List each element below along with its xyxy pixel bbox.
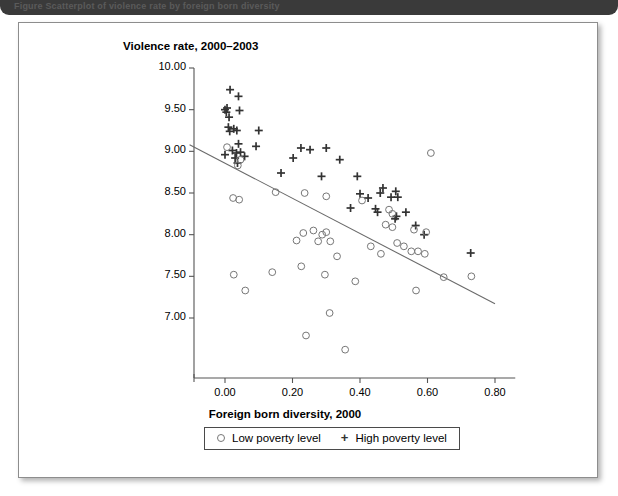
x-axis-tick-label: 0.20: [268, 386, 318, 398]
data-point-plus: [221, 151, 229, 159]
data-point-circle: [382, 221, 389, 228]
data-point-circle: [326, 310, 333, 317]
data-point-circle: [334, 253, 341, 260]
data-point-plus: [235, 92, 243, 100]
data-point-circle: [415, 248, 422, 255]
data-point-circle: [327, 238, 334, 245]
data-point-circle: [310, 227, 317, 234]
data-point-circle: [342, 346, 349, 353]
data-point-circle: [352, 278, 359, 285]
legend-item-low-poverty[interactable]: Low poverty level: [217, 432, 321, 444]
data-point-circle: [468, 273, 475, 280]
data-point-plus: [252, 142, 260, 150]
x-axis-title-text: Foreign born diversity, 2000: [209, 408, 362, 420]
data-point-circle: [300, 230, 307, 237]
data-point-plus: [402, 208, 410, 216]
figure-caption-banner: Figure Scatterplot of violence rate by f…: [0, 0, 618, 15]
data-point-circle: [293, 237, 300, 244]
data-point-circle: [408, 248, 415, 255]
data-point-plus: [255, 127, 263, 135]
data-point-plus: [356, 190, 364, 198]
data-point-plus: [318, 172, 326, 180]
data-point-plus: [237, 148, 245, 156]
data-point-circle: [389, 224, 396, 231]
data-point-circle: [411, 226, 418, 233]
figure-frame: Violence rate, 2000–2003 Foreign born di…: [18, 22, 598, 478]
data-point-plus: [297, 144, 305, 152]
data-point-circle: [421, 250, 428, 257]
data-point-plus: [336, 156, 344, 164]
data-point-plus: [226, 86, 234, 94]
y-axis-tick-label: 8.50: [140, 185, 186, 197]
plus-marker-icon: +: [341, 434, 349, 442]
data-point-circle: [269, 269, 276, 276]
data-point-plus: [412, 222, 420, 230]
data-point-plus: [277, 169, 285, 177]
legend-item-high-poverty[interactable]: + High poverty level: [341, 432, 447, 444]
data-point-plus: [467, 249, 475, 257]
data-point-circle: [303, 332, 310, 339]
data-point-plus: [353, 172, 361, 180]
series-low-poverty-level: [224, 144, 475, 353]
legend-label-high-poverty: High poverty level: [355, 432, 446, 444]
y-axis-tick-label: 8.00: [140, 227, 186, 239]
x-axis-title: Foreign born diversity, 2000: [19, 408, 599, 420]
data-point-circle: [400, 243, 407, 250]
data-point-plus: [236, 107, 244, 115]
data-point-plus: [322, 144, 330, 152]
legend-label-low-poverty: Low poverty level: [232, 432, 321, 444]
data-point-circle: [242, 287, 249, 294]
data-point-circle: [322, 271, 329, 278]
y-axis-tick-label: 9.00: [140, 143, 186, 155]
x-axis-tick-label: 0.80: [470, 386, 520, 398]
data-point-circle: [301, 190, 308, 197]
data-point-circle: [427, 150, 434, 157]
data-point-circle: [367, 243, 374, 250]
y-axis-tick-label: 10.00: [140, 60, 186, 72]
scatter-chart: Violence rate, 2000–2003 Foreign born di…: [19, 23, 599, 479]
x-axis-tick-label: 0.00: [200, 386, 250, 398]
data-point-circle: [298, 263, 305, 270]
chart-legend: Low poverty level + High poverty level: [204, 427, 460, 450]
data-point-plus: [224, 123, 232, 131]
y-axis-tick-label: 7.00: [140, 310, 186, 322]
data-point-circle: [323, 193, 330, 200]
series-high-poverty-level: [221, 86, 475, 257]
data-point-circle: [230, 271, 237, 278]
y-axis-tick-label: 7.50: [140, 268, 186, 280]
regression-trendline: [190, 145, 495, 304]
open-circle-marker-icon: [217, 434, 225, 442]
x-axis-tick-label: 0.40: [335, 386, 385, 398]
y-axis-tick-label: 9.50: [140, 102, 186, 114]
data-point-circle: [315, 238, 322, 245]
data-point-circle: [394, 240, 401, 247]
data-point-circle: [378, 250, 385, 257]
data-point-plus: [347, 204, 355, 212]
data-point-plus: [306, 146, 314, 154]
data-point-circle: [236, 196, 243, 203]
data-point-circle: [224, 144, 231, 151]
figure-caption-text: Figure Scatterplot of violence rate by f…: [14, 1, 280, 11]
x-axis-tick-label: 0.60: [403, 386, 453, 398]
data-point-plus: [235, 140, 243, 148]
data-point-circle: [413, 287, 420, 294]
data-point-circle: [359, 197, 366, 204]
data-point-plus: [289, 154, 297, 162]
